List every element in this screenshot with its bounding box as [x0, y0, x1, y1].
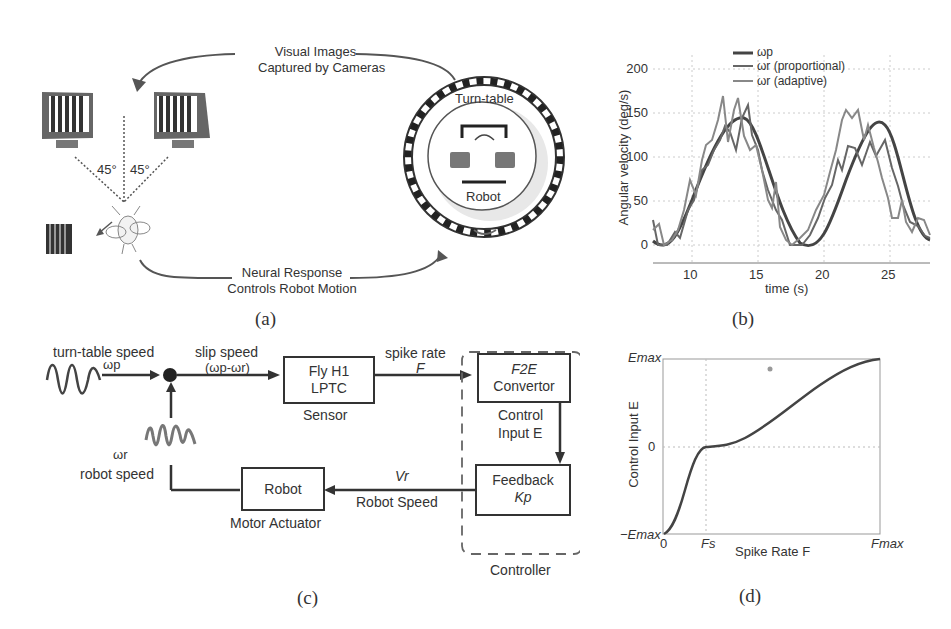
robot-speed-arrow-label: Robot Speed	[356, 494, 438, 510]
xtick-25: 25	[881, 267, 895, 282]
f2e-curve	[664, 359, 880, 534]
xtick-20: 20	[815, 267, 829, 282]
caption-d: (d)	[739, 585, 761, 607]
f2e-convertor-box: F2E Convertor	[477, 353, 571, 403]
feedback-box: Feedback Kp	[475, 464, 571, 516]
ytick-emax-text: Emax	[628, 350, 661, 365]
fly-icon	[106, 206, 150, 254]
ytick-zero: 0	[648, 439, 655, 454]
neural-response-label: Neural Response	[222, 265, 362, 281]
panel-d: Emax 0 −Emax 0 Fs Fmax Spike Rate F Cont…	[580, 340, 951, 629]
arrow-neural-response	[140, 260, 232, 278]
omega-r-label: ωr	[113, 447, 127, 462]
slip-speed-label: slip speed	[195, 344, 258, 360]
robot-box: Robot	[241, 467, 325, 511]
controls-robot-motion-label: Controls Robot Motion	[222, 281, 362, 297]
robot-sine-icon	[146, 425, 195, 445]
x-axis-label: time (s)	[765, 281, 808, 296]
feedback-line1: Feedback	[477, 472, 569, 489]
turntable-label: Turn-table	[455, 91, 514, 106]
panel-a: Visual Images Captured by Cameras Neural…	[0, 0, 580, 340]
legend-omega-r-adaptive: ωr (adaptive)	[757, 74, 827, 88]
caption-c: (c)	[297, 587, 318, 609]
y-axis-label-d: Control Input E	[626, 390, 641, 500]
feedback-line2: Kp	[477, 489, 569, 506]
spike-symbol-label: F	[416, 360, 425, 376]
angle-right-label: 45°	[130, 162, 150, 177]
sensor-label: Sensor	[303, 407, 347, 423]
x-axis-label-d: Spike Rate F	[735, 544, 810, 559]
summing-junction	[163, 368, 177, 382]
xtick-fmax: Fmax	[871, 536, 904, 551]
control-input-line1: Control	[498, 406, 543, 424]
xtick-zero: 0	[660, 536, 667, 551]
motor-actuator-label: Motor Actuator	[230, 515, 321, 531]
spike-rate-label: spike rate	[385, 345, 446, 361]
panel-b: ωp ωr (proportional) ωr (adaptive) 200 1…	[580, 0, 951, 340]
f2e-line1: F2E	[479, 361, 569, 378]
sensor-box-line1: Fly H1	[285, 363, 373, 380]
series-omega-r-adaptive	[653, 96, 930, 245]
right-monitor-icon	[154, 92, 210, 148]
slip-expression-label: (ωp-ωr)	[205, 360, 250, 375]
vr-label: Vr	[395, 468, 409, 484]
f2e-line2: Convertor	[479, 378, 569, 395]
robot-speed-label: robot speed	[80, 466, 154, 482]
ytick-emax: Emax	[628, 350, 661, 365]
robot-box-label: Robot	[243, 481, 323, 498]
omega-p-label: ωp	[103, 357, 120, 372]
y-axis-label: Angular velocity (deg/s)	[616, 73, 631, 243]
caption-b: (b)	[732, 308, 754, 330]
xtick-fs: Fs	[701, 536, 715, 551]
legend-omega-p: ωp	[757, 45, 773, 59]
robot-label: Robot	[466, 189, 501, 204]
sensor-box-line2: LPTC	[285, 380, 373, 397]
turntable-sine-icon	[47, 365, 100, 394]
angle-left-label: 45°	[97, 162, 117, 177]
visual-images-label: Visual Images	[258, 44, 373, 60]
left-monitor-icon	[42, 92, 93, 148]
sensor-box: Fly H1 LPTC	[283, 356, 375, 404]
xtick-10: 10	[683, 267, 697, 282]
caption-a: (a)	[255, 308, 276, 330]
control-input-line2: Input E	[498, 424, 543, 442]
panel-c: turn-table speed ωp slip speed (ωp-ωr) F…	[0, 340, 580, 629]
ytick-neg-emax-text: −Emax	[620, 527, 661, 542]
xtick-15: 15	[749, 267, 763, 282]
legend-omega-r-proportional: ωr (proportional)	[757, 59, 845, 73]
controller-label: Controller	[490, 562, 551, 578]
series-omega-p	[653, 118, 930, 246]
ytick-neg-emax: −Emax	[620, 527, 661, 542]
captured-by-cameras-label: Captured by Cameras	[258, 60, 373, 76]
series-omega-r-proportional	[653, 105, 930, 245]
arrow-visual-images	[138, 54, 235, 85]
